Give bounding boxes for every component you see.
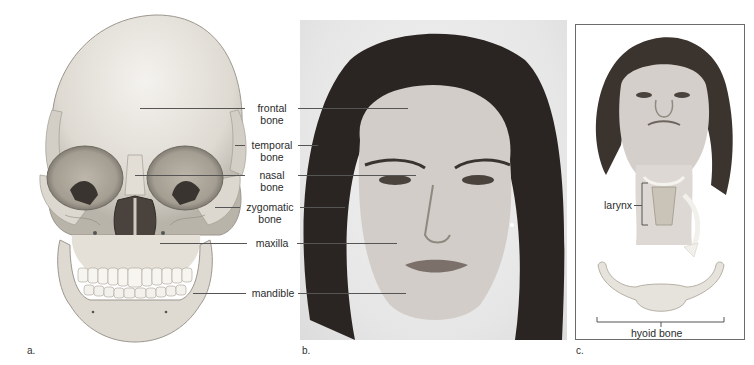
label-larynx: larynx (604, 199, 632, 211)
leader-line-maxilla-right (297, 243, 397, 244)
face-shape (300, 20, 567, 340)
face-photograph (300, 20, 567, 340)
leader-line-temporal-right (298, 145, 318, 146)
label-mandible: mandible (248, 287, 298, 299)
leader-line-zygomatic-right (300, 207, 345, 208)
label-maxilla: maxilla (249, 237, 295, 249)
leader-line-zygomatic-left (215, 207, 240, 208)
leader-line-larynx (634, 205, 642, 206)
panel-b-label: b. (302, 345, 310, 356)
larynx-hyoid-panel: larynx hyoid bone (575, 24, 745, 340)
leader-line-nasal-right (298, 175, 416, 176)
leader-line-mandible-left (193, 293, 246, 294)
panel-c-label: c. (576, 345, 584, 356)
label-frontal-bone: frontal bone (247, 102, 297, 126)
label-temporal-bone: temporal bone (247, 139, 297, 163)
panel-a-label: a. (27, 345, 35, 356)
upward-face-and-hyoid (576, 25, 745, 340)
label-zygomatic-bone: zygomatic bone (242, 201, 298, 225)
leader-line-frontal-left (140, 108, 245, 109)
label-nasal-bone: nasal bone (247, 169, 297, 193)
leader-line-nasal-left (135, 175, 245, 176)
label-hyoid-bone: hyoid bone (631, 327, 682, 339)
leader-line-temporal-left (235, 145, 245, 146)
leader-line-frontal-right (298, 108, 408, 109)
leader-line-mandible-right (298, 293, 406, 294)
leader-line-maxilla-left (160, 243, 247, 244)
